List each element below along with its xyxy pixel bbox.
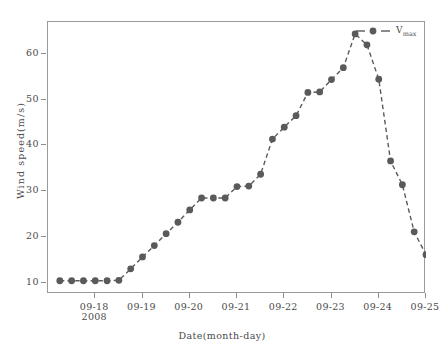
- y-axis-tick-label: 10: [26, 276, 39, 287]
- data-point-marker: [210, 195, 217, 202]
- legend-label-vmax: Vmax: [396, 25, 417, 38]
- data-point-marker: [80, 277, 87, 284]
- data-point-marker: [411, 228, 418, 235]
- y-axis-tick-mark: [41, 190, 46, 191]
- x-axis-tick-mark: [283, 293, 284, 298]
- data-point-marker: [115, 277, 122, 284]
- y-axis-tick-mark: [41, 53, 46, 54]
- data-point-marker: [198, 195, 205, 202]
- vmax-series-line: [60, 34, 426, 281]
- data-point-marker: [375, 76, 382, 83]
- x-axis-tick-label: 09-22: [269, 301, 298, 312]
- data-point-marker: [163, 230, 170, 237]
- data-point-marker: [316, 89, 323, 96]
- data-point-marker: [151, 242, 158, 249]
- y-axis-tick-label: 60: [26, 47, 39, 58]
- x-axis-tick-mark: [425, 293, 426, 298]
- data-point-marker: [269, 136, 276, 143]
- y-axis-title: Wind speed(m/s): [15, 76, 26, 226]
- data-point-marker: [423, 251, 426, 258]
- y-axis-tick-mark: [41, 236, 46, 237]
- data-point-marker: [92, 277, 99, 284]
- data-point-marker: [257, 171, 264, 178]
- data-point-marker: [304, 89, 311, 96]
- data-point-marker: [56, 277, 63, 284]
- data-point-marker: [245, 183, 252, 190]
- data-point-marker: [186, 206, 193, 213]
- x-axis-tick-mark: [236, 293, 237, 298]
- y-axis-tick-label: 50: [26, 93, 39, 104]
- plot-area: [47, 21, 425, 293]
- y-axis-tick-mark: [41, 144, 46, 145]
- x-axis-tick-label: 09-23: [316, 301, 345, 312]
- data-point-marker: [175, 219, 182, 226]
- chart-legend: Vmax: [352, 23, 421, 40]
- x-axis-tick-mark: [331, 293, 332, 298]
- x-axis-tick-label: 09-25: [411, 301, 440, 312]
- x-axis-year-note: 2008: [82, 311, 107, 322]
- data-point-marker: [399, 181, 406, 188]
- data-point-marker: [340, 64, 347, 71]
- wind-speed-chart-figure: 102030405060 09-1809-1909-2009-2109-2209…: [0, 0, 444, 353]
- x-axis-tick-mark: [189, 293, 190, 298]
- data-point-marker: [387, 158, 394, 165]
- data-point-marker: [104, 277, 111, 284]
- x-axis-tick-mark: [142, 293, 143, 298]
- y-axis-tick-mark: [41, 282, 46, 283]
- data-point-marker: [139, 254, 146, 261]
- data-point-marker: [68, 277, 75, 284]
- y-axis-tick-label: 40: [26, 138, 39, 149]
- x-axis-tick-mark: [378, 293, 379, 298]
- x-axis-tick-label: 09-20: [174, 301, 203, 312]
- data-point-marker: [234, 183, 241, 190]
- y-axis-tick-label: 20: [26, 230, 39, 241]
- data-point-marker: [364, 41, 371, 48]
- legend-label-subscript: max: [403, 30, 417, 38]
- series-plot-svg: [48, 22, 426, 294]
- vmax-series-markers: [56, 30, 426, 284]
- data-point-marker: [127, 265, 134, 272]
- x-axis-tick-mark: [94, 293, 95, 298]
- y-axis-tick-mark: [41, 99, 46, 100]
- x-axis-tick-label: 09-19: [127, 301, 156, 312]
- y-axis-tick-label: 30: [26, 184, 39, 195]
- data-point-marker: [222, 195, 229, 202]
- x-axis-title: Date(month-day): [0, 330, 444, 341]
- data-point-marker: [281, 124, 288, 131]
- x-axis-tick-label: 09-21: [222, 301, 251, 312]
- data-point-marker: [293, 112, 300, 119]
- legend-sample-icon: [356, 25, 390, 37]
- x-axis-tick-label: 09-24: [363, 301, 392, 312]
- data-point-marker: [328, 76, 335, 83]
